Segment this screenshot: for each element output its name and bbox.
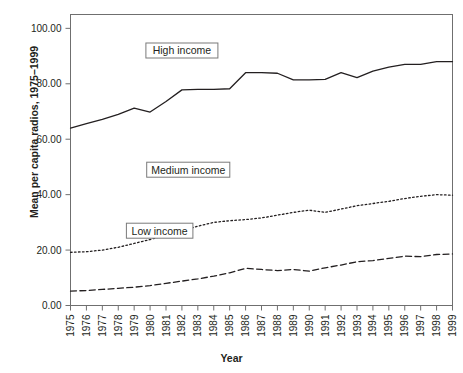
- y-axis-ticks: 0.0020.0040.0060.0080.00100.00: [31, 23, 71, 311]
- y-tick-label: 0.00: [42, 300, 62, 311]
- x-tick-label: 1998: [431, 314, 442, 337]
- x-tick-label: 1988: [272, 314, 283, 337]
- chart-figure: Mean per capita radios, 1975–1999 Year 0…: [0, 0, 463, 373]
- x-tick-label: 1979: [129, 314, 140, 337]
- y-tick-label: 40.00: [36, 189, 61, 200]
- x-tick-label: 1993: [352, 314, 363, 337]
- x-tick-label: 1982: [176, 314, 187, 337]
- plot-frame: [71, 15, 453, 306]
- x-tick-label: 1996: [399, 314, 410, 337]
- x-tick-label: 1978: [113, 314, 124, 337]
- y-tick-label: 20.00: [36, 245, 61, 256]
- x-tick-label: 1986: [240, 314, 251, 337]
- y-tick-label: 80.00: [36, 78, 61, 89]
- x-tick-label: 1981: [161, 314, 172, 337]
- x-tick-label: 1992: [336, 314, 347, 337]
- series-label-high-income: High income: [146, 43, 218, 58]
- x-tick-label: 1994: [367, 314, 378, 337]
- series-label-low-income: Low income: [126, 223, 192, 238]
- x-tick-label: 1980: [145, 314, 156, 337]
- x-tick-label: 1999: [447, 314, 458, 337]
- x-tick-label: 1977: [97, 314, 108, 337]
- y-tick-label: 60.00: [36, 134, 61, 145]
- x-tick-label: 1976: [81, 314, 92, 337]
- chart-plot-area: 0.0020.0040.0060.0080.00100.00 197519761…: [0, 0, 463, 373]
- x-tick-label: 1983: [192, 314, 203, 337]
- x-axis-ticks: 1975197619771978197919801981198219831984…: [65, 306, 458, 337]
- y-tick-label: 100.00: [31, 23, 62, 34]
- x-tick-label: 1985: [224, 314, 235, 337]
- x-tick-label: 1989: [288, 314, 299, 337]
- x-tick-label: 1991: [320, 314, 331, 337]
- x-tick-label: 1995: [383, 314, 394, 337]
- series-label-medium-income: Medium income: [147, 162, 230, 177]
- series-label-text: Medium income: [151, 164, 225, 176]
- x-tick-label: 1990: [304, 314, 315, 337]
- series-label-text: Low income: [132, 225, 188, 237]
- x-tick-label: 1975: [65, 314, 76, 337]
- x-tick-label: 1987: [256, 314, 267, 337]
- x-tick-label: 1984: [208, 314, 219, 337]
- x-tick-label: 1997: [415, 314, 426, 337]
- series-label-text: High income: [153, 44, 212, 56]
